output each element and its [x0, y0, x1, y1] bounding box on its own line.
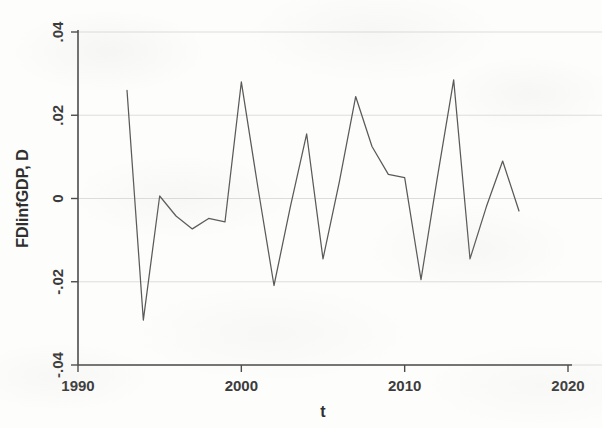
series-line-fdlinfgdp [127, 80, 519, 320]
y-tick-label-0: -.04 [49, 351, 66, 378]
x-axis-title: t [320, 403, 326, 420]
y-tick-label-2: 0 [49, 194, 66, 202]
y-axis-title: FDlinfGDP, D [14, 149, 31, 247]
y-tick-label-1: -.02 [49, 269, 66, 295]
series-group [127, 80, 519, 320]
y-tick-label-4: .04 [49, 21, 66, 43]
x-tick-label-2: 2010 [388, 377, 421, 394]
x-tick-label-1: 2000 [225, 377, 258, 394]
y-tick-group: -.04-.020.02.04 [49, 21, 78, 378]
x-tick-label-0: 1990 [61, 377, 94, 394]
gridline-group [78, 32, 602, 365]
y-tick-label-3: .02 [49, 105, 66, 126]
plot-canvas: -.04-.020.02.04 1990200020102020 FDlinfG… [0, 0, 602, 428]
x-tick-label-3: 2020 [551, 377, 584, 394]
x-tick-group: 1990200020102020 [61, 365, 584, 394]
chart-figure: -.04-.020.02.04 1990200020102020 FDlinfG… [0, 0, 602, 428]
axis-group [78, 30, 572, 365]
